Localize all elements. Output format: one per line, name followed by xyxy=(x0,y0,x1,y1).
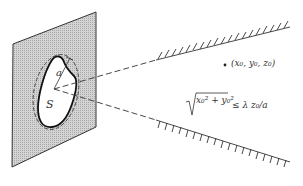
label-observation-point: (x₀, y₀, z₀) xyxy=(231,58,275,68)
upper-hatched-boundary xyxy=(156,21,290,60)
lower-hatched-boundary xyxy=(156,120,290,167)
observation-point-dot xyxy=(224,64,227,67)
label-condition-lhs: x₀² + y₀² xyxy=(196,95,234,105)
label-a: a xyxy=(56,67,62,78)
label-condition-rhs: ≤ λ z₀/a xyxy=(232,100,268,110)
label-s: S xyxy=(46,98,54,111)
diagram-canvas xyxy=(0,0,303,186)
